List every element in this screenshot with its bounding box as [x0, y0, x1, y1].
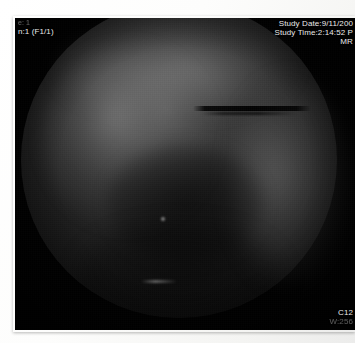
instrument-needle-artifact	[193, 106, 311, 111]
overlay-modality: MR	[275, 37, 354, 46]
anatomy-dark-inferior-region	[75, 223, 285, 330]
instrument-needle-shadow	[201, 112, 297, 115]
overlay-study-date: Study Date:9/11/200	[275, 19, 354, 28]
inferior-linear-marker	[141, 280, 177, 283]
overlay-series-line1: e: 1	[18, 19, 54, 27]
screenshot-root: e: 1 n:1 (F1/1) Study Date:9/11/200 Stud…	[0, 0, 355, 343]
fluoroscopy-image-frame[interactable]: e: 1 n:1 (F1/1) Study Date:9/11/200 Stud…	[15, 18, 355, 330]
overlay-bottom-line1: C12	[330, 308, 353, 317]
focal-bright-dot	[161, 217, 165, 221]
overlay-study-info: Study Date:9/11/200 Study Time:2:14:52 P…	[275, 19, 354, 46]
overlay-series-info: e: 1 n:1 (F1/1)	[18, 19, 54, 36]
overlay-bottom-line2: W:256	[330, 317, 353, 326]
overlay-window-level-info: C12 W:256	[330, 308, 353, 326]
overlay-study-time: Study Time:2:14:52 P	[275, 28, 354, 37]
overlay-series-line2: n:1 (F1/1)	[18, 27, 54, 36]
